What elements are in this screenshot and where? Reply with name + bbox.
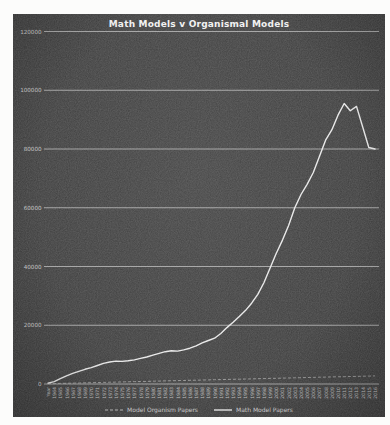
legend-item-model-organism-papers: Model Organism Papers: [105, 406, 198, 413]
legend-label: Model Organism Papers: [127, 406, 198, 413]
legend-label: Math Model Papers: [236, 406, 293, 413]
line-chart: 020000400006000080000100000120000 Year19…: [13, 14, 385, 417]
dashed-line-icon: [105, 408, 123, 412]
solid-line-icon: [214, 408, 232, 412]
legend-item-math-model-papers: Math Model Papers: [214, 406, 293, 413]
chart-legend: Model Organism Papers Math Model Papers: [13, 406, 385, 413]
noise-texture: [13, 14, 385, 417]
chart-title: Math Models v Organismal Models: [13, 19, 385, 29]
chart-panel: Math Models v Organismal Models 02000040…: [13, 14, 385, 417]
